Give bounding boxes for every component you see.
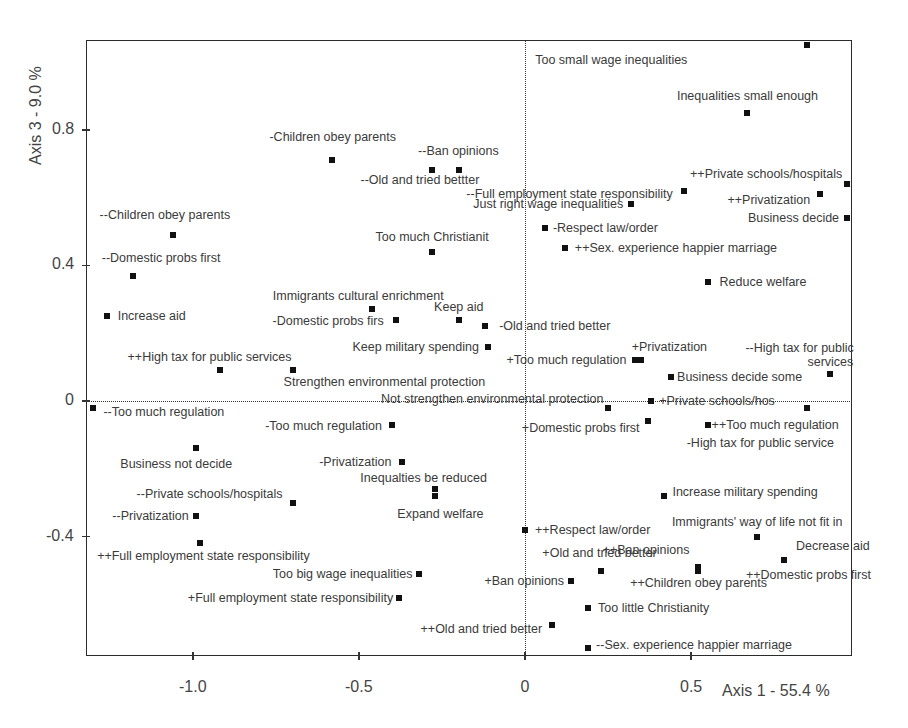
y-tick-label: 0.8 [52,120,74,138]
data-point-marker [485,344,491,350]
data-point-marker [389,422,395,428]
data-point-marker [628,201,634,207]
data-point-label: Immigrants' way of life not fit in [672,515,843,529]
data-point-marker [568,578,574,584]
data-point-label: Increase military spending [672,485,817,499]
data-point-marker [290,367,296,373]
x-tick-label: 0.5 [680,678,702,696]
data-point-label: Too big wage inequalities [273,567,413,581]
data-point-marker [648,398,654,404]
data-point-marker [681,188,687,194]
y-tick-label: 0.4 [52,255,74,273]
data-point-label: -High tax for public service [687,436,834,450]
data-point-label: --Too much regulation [103,405,224,419]
data-point-label: Too little Christianity [598,601,709,615]
data-point-marker [432,493,438,499]
data-point-marker [416,571,422,577]
data-point-label: ++Children obey parents [630,576,767,590]
data-point-marker [329,157,335,163]
data-point-marker [549,622,555,628]
data-point-marker [432,486,438,492]
data-point-marker [170,232,176,238]
data-point-label: -Old and tried better [499,319,610,333]
data-point-label: --Children obey parents [100,208,231,222]
data-point-label: +Too much regulation [507,353,627,367]
data-point-marker [844,181,850,187]
data-point-label: -Domestic probs firs [273,314,384,328]
x-tick-mark [192,652,194,660]
data-point-marker [638,357,644,363]
data-point-marker [290,500,296,506]
data-point-label: Too much Christianit [376,230,489,244]
data-point-label: -Respect law/order [553,221,658,235]
data-point-label: Too small wage inequalities [535,53,687,67]
data-point-marker [668,374,674,380]
x-tick-label: 0 [521,678,530,696]
y-axis-title: Axis 3 - 9.0 % [27,66,45,165]
data-point-marker [197,540,203,546]
y-tick-label: -0.4 [46,527,74,545]
x-tick-mark [358,652,360,660]
data-point-label: ++Old and tried better [421,622,543,636]
data-point-label: -Too much regulation [265,419,382,433]
data-point-marker [632,357,638,363]
data-point-label: --Privatization [112,509,188,523]
data-point-marker [598,568,604,574]
data-point-marker [695,568,701,574]
y-tick-mark [82,265,90,267]
data-point-marker [429,249,435,255]
data-point-label: +Private schools/hos [659,394,775,408]
data-point-label: +Full employment state responsibility [188,591,393,605]
y-tick-mark [82,536,90,538]
x-zero-reference-line [525,40,526,656]
data-point-marker [393,317,399,323]
x-tick-label: -1.0 [179,678,207,696]
data-point-label: Keep aid [434,300,483,314]
data-point-label: ++Private schools/hospitals [690,167,842,181]
data-point-marker [744,110,750,116]
data-point-marker [754,534,760,540]
data-point-marker [844,215,850,221]
data-point-marker [456,317,462,323]
data-point-marker [456,167,462,173]
data-point-label: ++High tax for public services [128,350,292,364]
y-tick-mark [82,129,90,131]
data-point-label: Increase aid [118,309,186,323]
data-point-marker [522,527,528,533]
correspondence-analysis-plot: -1.0-0.500.5 -0.400.40.8 Too small wage … [0,0,908,728]
data-point-label: Decrease aid [796,539,870,553]
data-point-label: Just right wage inequalities [473,197,623,211]
data-point-label: ++Respect law/order [535,523,650,537]
data-point-label: Immigrants cultural enrichment [273,289,444,303]
data-point-label: ++Too much regulation [712,418,839,432]
data-point-label: +Domestic probs first [522,421,640,435]
data-point-label: -Privatization [319,455,391,469]
data-point-marker [396,595,402,601]
data-point-label: +Old and tried better [542,546,656,560]
data-point-label: --Domestic probs first [102,251,221,265]
data-point-label: Expand welfare [397,507,483,521]
data-point-label: Keep military spending [352,340,478,354]
x-tick-mark [524,652,526,660]
data-point-marker [369,306,375,312]
data-point-label: +Privatization [632,340,707,354]
data-point-label: --Sex. experience happier marriage [596,638,792,652]
data-point-marker [193,513,199,519]
data-point-marker [90,405,96,411]
data-point-marker [585,605,591,611]
data-point-marker [217,367,223,373]
data-point-marker [804,42,810,48]
data-point-label: services [807,355,853,369]
data-point-label: ++Privatization [727,193,810,207]
data-point-label: Business not decide [120,457,232,471]
data-point-marker [661,493,667,499]
data-point-label: Business decide [748,211,839,225]
data-point-marker [781,557,787,563]
data-point-label: Inequalities small enough [677,89,818,103]
data-point-marker [804,405,810,411]
data-point-marker [482,323,488,329]
data-point-marker [193,445,199,451]
data-point-marker [645,418,651,424]
data-point-label: Strengthen environmental protection [284,375,486,389]
data-point-label: Reduce welfare [720,275,807,289]
